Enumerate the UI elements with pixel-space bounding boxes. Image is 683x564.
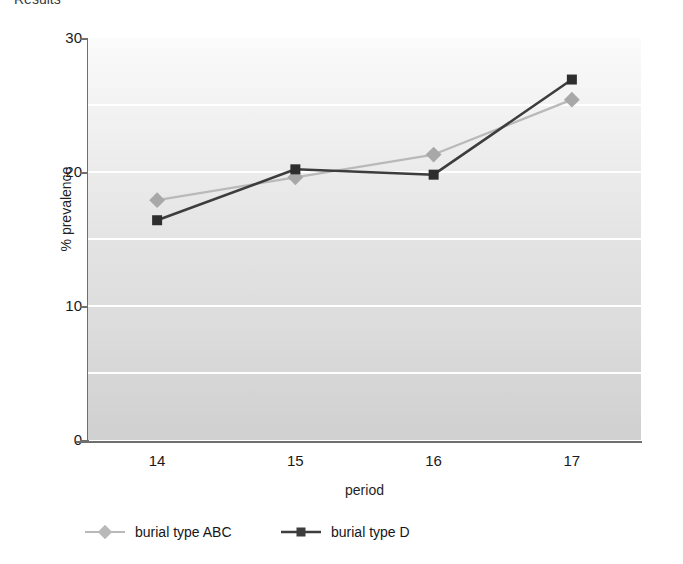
data-point-marker — [564, 92, 580, 108]
y-axis-tick-label: 10 — [40, 298, 82, 313]
legend-diamond-marker-icon — [84, 525, 126, 539]
chart-figure: % prevalence 0102030 14151617 period bur… — [0, 0, 683, 564]
y-axis-tick-mark — [80, 172, 88, 174]
x-axis-tick-label: 14 — [149, 452, 166, 469]
x-axis-tick-label: 15 — [287, 452, 304, 469]
series-overlay — [88, 38, 641, 440]
legend-label: burial type D — [331, 525, 410, 539]
y-axis-tick-label: 0 — [40, 432, 82, 447]
data-point-marker — [429, 170, 439, 180]
data-point-marker — [290, 164, 300, 174]
y-axis-tick-label: 20 — [40, 164, 82, 179]
legend-square-marker-icon — [280, 525, 322, 539]
legend-item[interactable]: burial type D — [280, 521, 410, 543]
x-axis-line — [76, 441, 642, 443]
series-line — [157, 100, 572, 201]
data-point-marker — [426, 147, 442, 163]
data-point-marker — [149, 192, 165, 208]
plot-area — [88, 38, 641, 440]
y-axis-tick-mark — [80, 306, 88, 308]
y-axis-tick-label: 30 — [40, 30, 82, 45]
chart-legend: burial type ABCburial type D — [84, 521, 504, 545]
y-axis-tick-labels: 0102030 — [14, 0, 82, 564]
legend-item[interactable]: burial type ABC — [84, 521, 232, 543]
data-point-marker — [567, 75, 577, 85]
legend-label: burial type ABC — [135, 525, 232, 539]
series-line — [157, 80, 572, 221]
x-axis-tick-label: 17 — [564, 452, 581, 469]
y-axis-tick-mark — [80, 440, 88, 442]
data-point-marker — [152, 215, 162, 225]
x-axis-tick-labels: 14151617 — [88, 452, 641, 472]
x-axis-tick-label: 16 — [425, 452, 442, 469]
y-axis-tick-mark — [80, 38, 88, 40]
x-axis-title: period — [88, 482, 641, 498]
